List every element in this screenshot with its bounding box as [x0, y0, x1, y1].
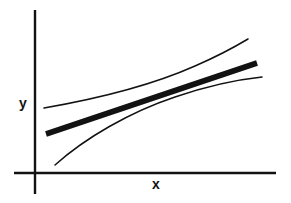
- regression-line: [46, 63, 257, 134]
- regression-confidence-band-figure: y x: [0, 0, 291, 203]
- x-axis-label: x: [152, 177, 160, 191]
- y-axis-label: y: [19, 96, 27, 110]
- plot-canvas: [0, 0, 291, 203]
